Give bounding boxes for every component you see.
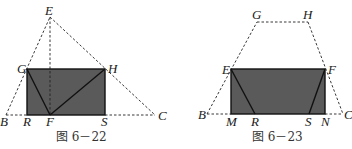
label-G: G (17, 61, 27, 76)
label-B: B (198, 107, 206, 122)
label-R: R (22, 114, 31, 129)
label-E: E (44, 3, 53, 18)
label-F: F (45, 114, 55, 129)
label-H: H (302, 7, 313, 22)
figure-6-22: E G H B R F S C 图 6－22 (0, 3, 167, 144)
label-M: M (225, 114, 238, 129)
geometry-figures: E G H B R F S C 图 6－22 G H E F B M R S N… (0, 0, 352, 149)
label-N: N (320, 114, 331, 129)
label-E: E (221, 62, 230, 77)
label-C: C (344, 107, 352, 122)
label-F: F (327, 62, 337, 77)
label-S: S (305, 114, 312, 129)
label-G: G (252, 7, 262, 22)
label-R: R (250, 114, 259, 129)
label-H: H (107, 61, 118, 76)
label-B: B (0, 114, 8, 129)
figure-6-23: G H E F B M R S N C 图 6－23 (198, 7, 352, 144)
figure-caption: 图 6－23 (252, 130, 303, 144)
label-S: S (101, 114, 108, 129)
label-C: C (158, 108, 167, 123)
figure-caption: 图 6－22 (56, 130, 107, 144)
